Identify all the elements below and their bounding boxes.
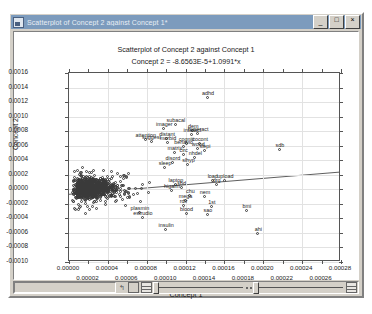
- y-axis-tick: [65, 160, 69, 161]
- data-point: [96, 191, 99, 194]
- x-axis-tick: [263, 69, 264, 73]
- point-label: estrudio: [133, 210, 152, 216]
- data-point: [95, 196, 98, 199]
- data-point: [110, 177, 113, 180]
- x-axis-tick: [186, 69, 187, 73]
- point-label: slhyp: [182, 157, 195, 163]
- data-point: [173, 151, 176, 154]
- pan-slider-knob[interactable]: [253, 282, 259, 294]
- slider-separator-dot: [250, 287, 252, 289]
- minimize-button[interactable]: _: [313, 15, 328, 29]
- y-axis-tick: [339, 189, 343, 190]
- point-label: suggest: [142, 134, 161, 140]
- slider-separator-dot: [246, 287, 248, 289]
- pan-slider[interactable]: [253, 282, 345, 293]
- data-point: [166, 141, 169, 144]
- y-axis-tick-label: -0.0004: [0, 213, 28, 220]
- maximize-button[interactable]: □: [329, 15, 344, 29]
- y-axis-tick: [65, 102, 69, 103]
- data-point: [182, 153, 185, 156]
- scatterplot: Scatterplot of Concept 2 against Concept…: [14, 32, 358, 279]
- resize-grip-icon[interactable]: [346, 282, 357, 293]
- data-point: [147, 191, 150, 194]
- x-axis-tick: [224, 69, 225, 73]
- gridline-horizontal: [69, 233, 339, 234]
- y-axis-tick: [339, 233, 343, 234]
- y-axis-tick: [65, 175, 69, 176]
- gridline-vertical: [186, 73, 187, 260]
- data-point: [106, 175, 109, 178]
- data-point: [148, 181, 151, 184]
- point-label: sleep: [159, 160, 172, 166]
- data-point: [215, 183, 218, 186]
- y-axis-tick-label: 0.0002: [0, 170, 28, 177]
- zoom-slider[interactable]: [153, 282, 245, 293]
- y-axis-tick-label: -0.0006: [0, 228, 28, 235]
- data-point: [88, 208, 91, 211]
- gridline-horizontal: [69, 160, 339, 161]
- point-label: drg: [213, 177, 221, 183]
- y-axis-tick-label: 0.0000: [0, 184, 28, 191]
- y-axis-tick: [65, 204, 69, 205]
- window-titlebar[interactable]: Scatterplot of Concept 2 against Concept…: [11, 15, 361, 29]
- y-axis-tick-label: -0.0002: [0, 199, 28, 206]
- data-point: [278, 148, 281, 151]
- y-axis-tick: [339, 117, 343, 118]
- y-axis-tick-label: -0.0010: [0, 257, 28, 264]
- grid-icon[interactable]: [141, 282, 152, 293]
- point-label: blood: [180, 206, 193, 212]
- data-point: [93, 174, 96, 177]
- y-axis-tick: [339, 218, 343, 219]
- y-axis-tick: [339, 247, 343, 248]
- minimize-icon: _: [314, 17, 327, 27]
- data-point: [122, 177, 125, 180]
- status-message-pane: [14, 282, 116, 293]
- point-label: interact: [184, 127, 202, 133]
- y-axis-tick: [65, 73, 69, 74]
- data-point: [108, 181, 111, 184]
- point-label: rdir: [180, 198, 188, 204]
- gridline-horizontal: [69, 218, 339, 219]
- square-icon[interactable]: [128, 282, 139, 293]
- data-point: [150, 140, 153, 143]
- point-label: adhd: [202, 90, 214, 96]
- data-point: [185, 212, 188, 215]
- data-point: [134, 187, 137, 190]
- point-label: sao: [204, 207, 213, 213]
- zoom-slider-knob[interactable]: [153, 282, 159, 294]
- y-axis-tick: [339, 73, 343, 74]
- data-point: [174, 123, 177, 126]
- data-point: [122, 184, 125, 187]
- x-axis-tick-label: 0.00026: [298, 274, 344, 281]
- window-title: Scatterplot of Concept 2 against Concept…: [27, 19, 312, 26]
- data-point: [84, 202, 87, 205]
- gridline-horizontal: [69, 117, 339, 118]
- data-point: [119, 180, 122, 183]
- y-axis-tick-label: 0.0006: [0, 141, 28, 148]
- data-point: [72, 179, 75, 182]
- y-axis-tick: [65, 146, 69, 147]
- arrow-icon[interactable]: ↰: [117, 283, 126, 292]
- x-axis-tick: [302, 69, 303, 73]
- close-icon: ×: [346, 15, 359, 25]
- close-button[interactable]: ×: [345, 15, 360, 29]
- gridline-vertical: [263, 73, 264, 260]
- x-axis-tick-label: 0.00028: [317, 264, 363, 271]
- data-point: [116, 172, 119, 175]
- x-axis-tick: [205, 69, 206, 73]
- y-axis-tick: [65, 218, 69, 219]
- point-label: slepi: [199, 143, 210, 149]
- data-point: [107, 190, 110, 193]
- x-axis-tick: [108, 69, 109, 73]
- data-point: [93, 200, 96, 203]
- data-point: [73, 207, 76, 210]
- data-point: [123, 193, 126, 196]
- data-point: [87, 186, 90, 189]
- data-point: [103, 180, 106, 183]
- x-axis-tick: [147, 69, 148, 73]
- gridline-vertical: [147, 73, 148, 260]
- y-axis-tick: [339, 204, 343, 205]
- data-point: [104, 203, 107, 206]
- data-point: [136, 192, 139, 195]
- x-axis-tick: [244, 69, 245, 73]
